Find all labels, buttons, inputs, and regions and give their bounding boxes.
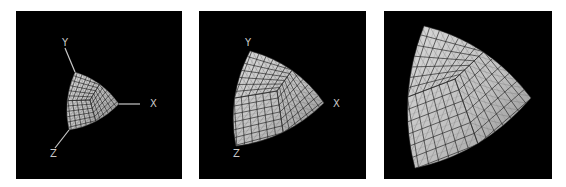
mesh-view-panel-2: YXZ (199, 11, 366, 179)
mesh-surface (59, 62, 129, 140)
axis-label-y: Y (61, 37, 69, 48)
axis-label-z: Z (50, 148, 57, 159)
mesh-surface (392, 11, 552, 179)
axis-line-y (65, 48, 75, 72)
mesh-view-panel-3 (384, 11, 552, 179)
mesh-svg-3 (384, 11, 552, 179)
axis-label-z: Z (233, 148, 240, 159)
mesh-svg-2: YXZ (199, 11, 366, 179)
mesh-svg-1: YXZ (16, 11, 182, 179)
axis-line-z (55, 130, 69, 148)
mesh-view-panel-1: YXZ (16, 11, 182, 179)
axis-label-y: Y (244, 37, 252, 48)
axis-label-x: X (333, 98, 340, 109)
axis-label-x: X (150, 98, 157, 109)
